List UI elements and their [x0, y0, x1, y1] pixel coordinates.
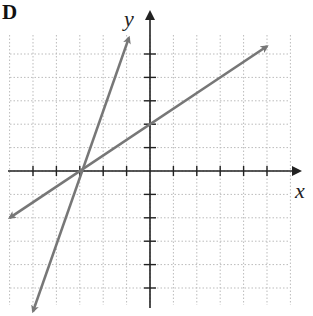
y-axis-label: y [122, 6, 134, 31]
line-2 [33, 38, 129, 312]
coordinate-plane: xy [0, 0, 313, 316]
x-axis-label: x [294, 178, 305, 203]
line-1 [10, 46, 267, 218]
